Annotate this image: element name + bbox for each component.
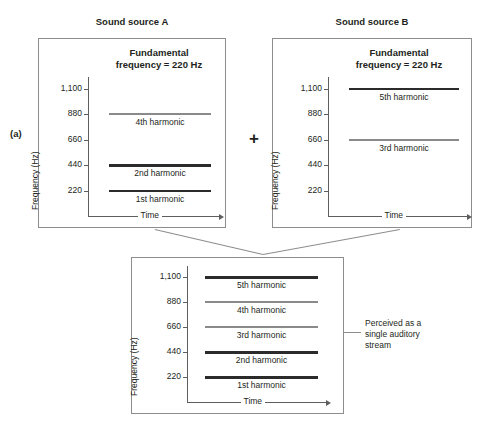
harmonic-label: 4th harmonic (109, 117, 211, 127)
harmonic-line (109, 190, 211, 193)
y-axis-tick-label: 440 (141, 346, 181, 356)
harmonic-line (205, 301, 318, 303)
y-axis-line (88, 77, 89, 216)
annotation-perceived-stream: Perceived as a single auditory stream (365, 318, 475, 351)
panel-heading-source-a: Fundamental frequency = 220 Hz (95, 47, 223, 70)
y-axis-tick (324, 191, 328, 192)
y-axis-tick-label: 220 (282, 185, 322, 195)
y-axis-title: Frequency (Hz) (129, 337, 139, 396)
y-axis-tick (183, 327, 187, 328)
y-axis-tick-label: 440 (282, 159, 322, 169)
panel-combined: 1,100880660440220Frequency (Hz)Time5th h… (131, 257, 344, 414)
harmonic-label: 5th harmonic (205, 280, 318, 290)
y-axis-tick (84, 191, 88, 192)
harmonic-label: 3rd harmonic (205, 330, 318, 340)
harmonic-label: 4th harmonic (205, 305, 318, 315)
harmonic-label: 5th harmonic (349, 92, 459, 102)
y-axis-tick (324, 165, 328, 166)
y-axis-tick-label: 440 (42, 159, 82, 169)
harmonic-label: 2nd harmonic (109, 168, 211, 178)
panel-title-source-a: Sound source A (38, 16, 226, 27)
panel-heading-source-b: Fundamental frequency = 220 Hz (335, 47, 463, 70)
y-axis-tick-label: 660 (42, 134, 82, 144)
x-axis-arrow-icon (467, 214, 472, 220)
harmonic-label: 1st harmonic (205, 380, 318, 390)
y-axis-line (187, 266, 188, 402)
y-axis-tick-label: 220 (42, 185, 82, 195)
harmonic-line (349, 88, 459, 91)
y-axis-tick (183, 352, 187, 353)
harmonic-line (109, 164, 211, 167)
harmonic-line (205, 276, 318, 279)
y-axis-tick-label: 220 (141, 371, 181, 381)
y-axis-tick-label: 660 (141, 321, 181, 331)
y-axis-tick (84, 89, 88, 90)
y-axis-tick-label: 1,100 (42, 83, 82, 93)
x-axis-title: Time (382, 210, 407, 220)
y-axis-tick-label: 1,100 (141, 271, 181, 281)
harmonic-line (205, 376, 318, 379)
y-axis-tick (324, 140, 328, 141)
harmonic-label: 2nd harmonic (205, 355, 318, 365)
part-label: (a) (10, 128, 22, 139)
panel-source-b: Fundamental frequency = 220 Hz 1,1008806… (272, 38, 472, 228)
x-axis-title: Time (241, 396, 266, 406)
y-axis-tick-label: 880 (282, 108, 322, 118)
harmonic-label: 1st harmonic (109, 194, 211, 204)
y-axis-tick-label: 660 (282, 134, 322, 144)
y-axis-tick (84, 165, 88, 166)
y-axis-tick-label: 880 (42, 108, 82, 118)
harmonic-line (205, 326, 318, 328)
connector-source-b (263, 229, 400, 255)
y-axis-tick (324, 114, 328, 115)
y-axis-title: Frequency (Hz) (30, 151, 40, 210)
x-axis-arrow-icon (219, 214, 224, 220)
y-axis-tick (183, 302, 187, 303)
plus-operator: + (249, 130, 259, 147)
harmonic-line (109, 113, 211, 115)
y-axis-tick (84, 114, 88, 115)
panel-source-a: Fundamental frequency = 220 Hz 1,1008806… (38, 38, 226, 228)
y-axis-line (328, 77, 329, 216)
y-axis-title: Frequency (Hz) (270, 151, 280, 210)
y-axis-tick (183, 277, 187, 278)
y-axis-tick-label: 1,100 (282, 83, 322, 93)
x-axis-title: Time (138, 210, 163, 220)
annotation-leader-line (344, 332, 361, 333)
harmonic-line (349, 139, 459, 141)
y-axis-tick-label: 880 (141, 296, 181, 306)
harmonic-label: 3rd harmonic (349, 143, 459, 153)
y-axis-tick (324, 89, 328, 90)
y-axis-tick (183, 377, 187, 378)
x-axis-arrow-icon (326, 400, 331, 406)
y-axis-tick (84, 140, 88, 141)
harmonic-line (205, 351, 318, 354)
connector-source-a (155, 229, 263, 255)
panel-title-source-b: Sound source B (272, 16, 472, 27)
